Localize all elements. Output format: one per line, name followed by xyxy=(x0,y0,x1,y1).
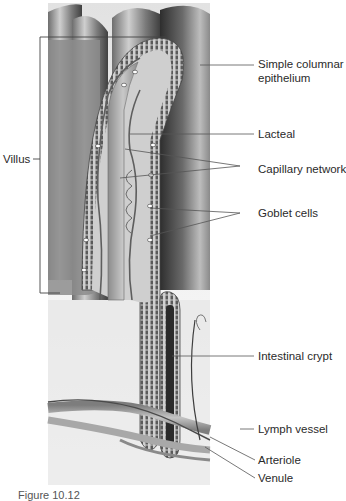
label-lymph-vessel: Lymph vessel xyxy=(258,423,328,436)
figure-caption: Figure 10.12 xyxy=(18,489,80,501)
label-goblet-cells: Goblet cells xyxy=(258,207,318,220)
intestinal-crypt xyxy=(160,292,180,458)
label-epithelium: epithelium xyxy=(258,72,310,85)
label-intestinal-crypt: Intestinal crypt xyxy=(258,350,332,363)
label-simple-columnar: Simple columnar xyxy=(258,58,344,71)
label-venule: Venule xyxy=(258,472,293,485)
label-villus: Villus xyxy=(3,153,30,166)
label-capillary-network: Capillary network xyxy=(258,163,346,176)
label-lacteal: Lacteal xyxy=(258,128,295,141)
label-arteriole: Arteriole xyxy=(258,454,301,467)
